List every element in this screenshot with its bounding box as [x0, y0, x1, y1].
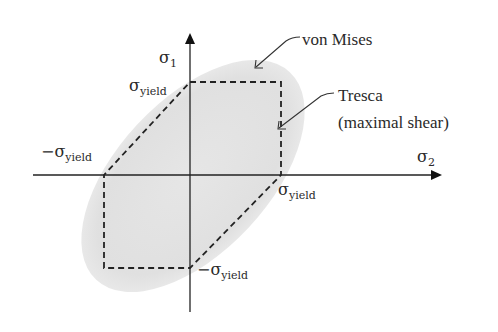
sigma1-arrowhead-icon — [185, 33, 195, 44]
top-yield-label: σyield — [129, 76, 167, 98]
sigma2-arrowhead-icon — [431, 170, 442, 180]
yield-criteria-diagram: σ1 σ2 σyield −σyield σyield −σyield von … — [0, 0, 498, 332]
tresca-label: Tresca — [338, 86, 383, 105]
right-yield-label: σyield — [278, 180, 316, 202]
tresca-sublabel: (maximal shear) — [338, 113, 449, 132]
left-yield-label: −σyield — [41, 142, 92, 164]
sigma1-label: σ1 — [159, 48, 177, 70]
von-mises-label: von Mises — [302, 30, 372, 49]
von-mises-ellipse — [41, 20, 346, 331]
sigma2-label: σ2 — [417, 147, 435, 169]
bottom-yield-label: −σyield — [197, 260, 248, 282]
